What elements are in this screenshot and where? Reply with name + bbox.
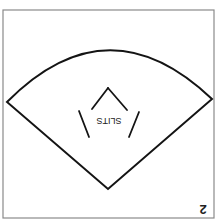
slits-label: SLITS [96,116,121,126]
pattern-sheet: SLITS 2 [0,0,217,224]
piece-number: 2 [199,202,206,217]
pattern-diagram: SLITS 2 [0,0,217,224]
